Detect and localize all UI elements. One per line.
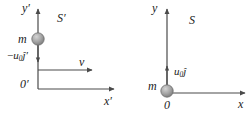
mass-label-s: m (148, 80, 157, 92)
mass-particle-s (161, 85, 173, 97)
velocity-unit-vector-s: ĵ (183, 65, 186, 77)
velocity-label-s-prime: −u0ĵ′ (7, 50, 28, 62)
frame-label-s: S (189, 14, 195, 26)
velocity-unit-vector-s-prime: ĵ′ (22, 49, 27, 61)
physics-figure: y′ S′ m −u0ĵ′ v⃗ 0′ x′ y S u0ĵ m 0 x (0, 0, 251, 116)
frame-s-prime-axes (38, 9, 114, 89)
mass-label-s-prime: m (18, 33, 27, 45)
x-prime-axis-label: x′ (104, 95, 112, 107)
x-axis-label: x (238, 98, 243, 110)
frame-label-s-prime: S′ (57, 12, 66, 24)
figure-canvas (0, 0, 251, 116)
y-prime-axis-label: y′ (22, 2, 30, 14)
origin-label-s-prime: 0′ (20, 78, 29, 90)
frame-s-axes (167, 9, 245, 93)
mass-particle-s-prime (32, 33, 44, 45)
origin-label-s: 0 (164, 99, 170, 111)
frame-velocity-label: v⃗ (79, 56, 94, 68)
y-axis-label: y (152, 2, 157, 14)
velocity-label-s: u0ĵ (174, 66, 186, 78)
